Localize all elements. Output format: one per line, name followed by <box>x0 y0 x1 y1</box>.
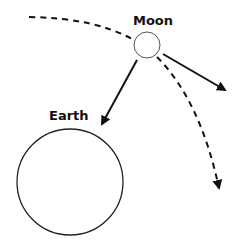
orbit-diagram <box>0 0 239 250</box>
earth-circle <box>17 129 123 235</box>
moon-label: Moon <box>133 13 173 28</box>
velocity-arrow <box>163 54 225 90</box>
earth-label: Earth <box>49 108 89 123</box>
gravity-arrow <box>102 60 137 124</box>
moon-circle <box>134 32 160 58</box>
orbit-path-dashed <box>29 17 134 40</box>
orbit-continuation-arrow <box>157 57 219 188</box>
